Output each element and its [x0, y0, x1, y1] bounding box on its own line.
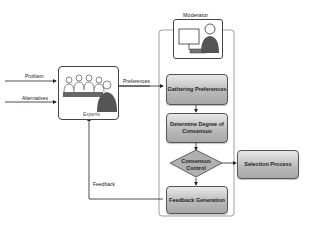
selection-process-box: Selection Process	[237, 150, 299, 179]
preferences-edge-label: Preferences	[123, 78, 150, 84]
experts-box: Experts	[58, 66, 119, 120]
feedback-generation-box: Feedback Generation	[166, 186, 228, 214]
feedback-edge-label: Feedback	[93, 181, 115, 187]
connectors	[0, 0, 313, 228]
experts-label: Experts	[83, 111, 100, 117]
determine-degree-box: Determine Degree of Consensus	[166, 113, 228, 143]
moderator-frame	[173, 19, 223, 59]
moderator-label: Moderator	[183, 12, 208, 18]
consensus-control-label: Consensus Control	[180, 158, 212, 171]
problem-label: Problem	[25, 73, 44, 79]
moderator-computer-icon	[174, 20, 222, 58]
alternatives-label: Alternatives	[22, 95, 48, 101]
gathering-preferences-box: Gathering Preferences	[166, 74, 228, 105]
